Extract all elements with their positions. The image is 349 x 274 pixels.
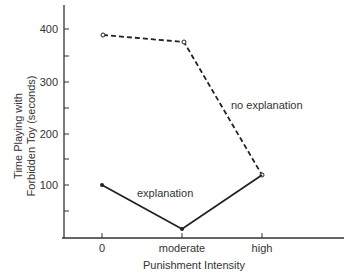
series-label-explanation: explanation xyxy=(137,187,193,199)
y-tick-100: 100 xyxy=(40,179,58,191)
series-label-no-explanation: no explanation xyxy=(231,99,303,111)
y-tick-200: 200 xyxy=(40,128,58,140)
x-tick-moderate: moderate xyxy=(159,242,205,254)
y-axis-title-line1: Time Playing with xyxy=(12,93,24,179)
y-axis-title-line2: Forbidden Toy (seconds) xyxy=(25,76,37,197)
series-no-explanation: no explanation xyxy=(101,33,303,177)
filled-circle-marker xyxy=(180,227,184,231)
filled-circle-marker xyxy=(100,183,104,187)
y-tick-300: 300 xyxy=(40,76,58,88)
x-axis-title: Punishment Intensity xyxy=(143,259,246,271)
x-tick-0: 0 xyxy=(99,242,105,254)
y-axis: 400 300 200 100 Time Playing with Forbid… xyxy=(12,5,69,238)
y-tick-400: 400 xyxy=(40,23,58,35)
x-axis: 0 moderate high Punishment Intensity xyxy=(62,233,344,271)
chart: 400 300 200 100 Time Playing with Forbid… xyxy=(0,0,349,274)
open-circle-marker xyxy=(182,40,186,44)
x-tick-high: high xyxy=(252,242,273,254)
series-explanation: explanation xyxy=(100,175,262,231)
open-circle-marker xyxy=(101,33,105,37)
